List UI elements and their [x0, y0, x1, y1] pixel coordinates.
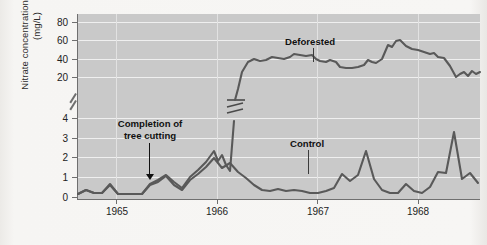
x-tick-label-1967: 1967	[288, 206, 348, 217]
x-tick-mark-1965	[116, 199, 117, 204]
annotation-deforested-leader	[313, 48, 314, 62]
x-tick-label-1968: 1968	[388, 206, 448, 217]
y-tick-label-60: 60	[44, 35, 68, 46]
annotation-deforested: Deforested	[285, 36, 335, 47]
annotation-completion: Completion of tree cutting	[90, 118, 210, 141]
annotation-completion-arrow-head	[146, 174, 154, 180]
y-axis-title-line2: (mg/L)	[31, 0, 43, 119]
y-tick-label-0: 0	[44, 192, 68, 203]
x-tick-mark-1967	[317, 199, 318, 204]
x-tick-mark-1968	[418, 199, 419, 204]
y-tick-label-1: 1	[44, 172, 68, 183]
x-tick-label-1966: 1966	[187, 206, 247, 217]
y-tick-label-80: 80	[44, 17, 68, 28]
annotation-control-leader	[308, 150, 309, 174]
y-axis-title-line1: Nitrate concentration in runoff	[19, 0, 31, 119]
annotation-completion-line2: tree cutting	[124, 130, 176, 141]
annotation-completion-line1: Completion of	[118, 118, 182, 129]
series-line-control	[78, 132, 478, 194]
x-tick-label-1965: 1965	[87, 206, 147, 217]
plot-area	[78, 14, 480, 199]
y-tick-label-4: 4	[44, 113, 68, 124]
annotation-completion-arrow-line	[149, 143, 150, 175]
data-series-layer	[78, 14, 480, 199]
y-tick-label-2: 2	[44, 152, 68, 163]
x-tick-mark-1966	[217, 199, 218, 204]
y-tick-label-3: 3	[44, 133, 68, 144]
y-tick-label-20: 20	[44, 72, 68, 83]
annotation-control: Control	[290, 138, 324, 149]
series-break-mark	[227, 103, 243, 113]
y-tick-label-40: 40	[44, 54, 68, 65]
figure-root: Nitrate concentration in runoff (mg/L) 8…	[0, 0, 487, 245]
y-axis-title: Nitrate concentration in runoff (mg/L)	[19, 0, 43, 119]
series-line-deforested-upper	[235, 40, 480, 100]
